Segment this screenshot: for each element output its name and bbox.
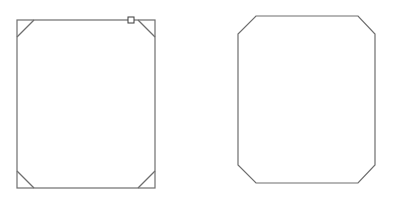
corner-guide-bottom-right (138, 171, 155, 188)
corner-guide-bottom-left (17, 171, 34, 188)
selection-handle[interactable] (128, 17, 134, 23)
octagon-outline[interactable] (238, 16, 375, 183)
corner-guide-top-left (17, 20, 34, 37)
corner-guide-lines (17, 20, 155, 188)
rectangle-outline[interactable] (17, 20, 155, 188)
chamfered-rectangle-shape[interactable] (238, 16, 375, 183)
beveled-rectangle-guide-shape[interactable] (17, 17, 155, 188)
drawing-canvas (0, 0, 393, 202)
corner-guide-top-right (138, 20, 155, 37)
